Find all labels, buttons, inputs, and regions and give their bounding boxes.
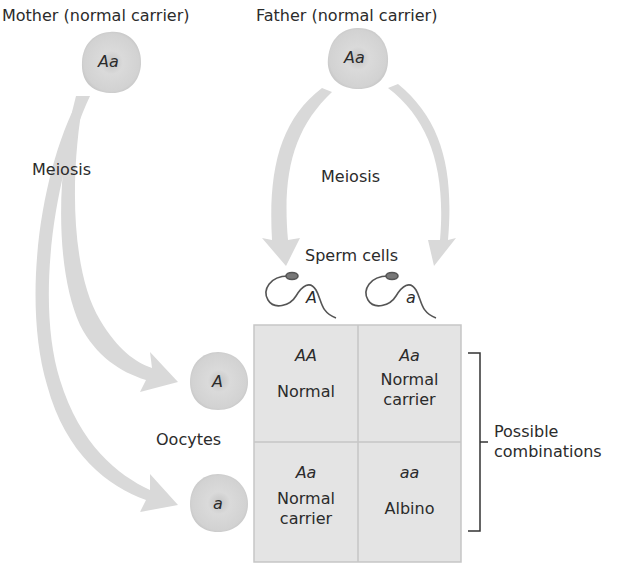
oocyte-allele-A: A bbox=[212, 372, 223, 391]
mother-genotype: Aa bbox=[98, 52, 119, 71]
cell-genotype: Aa bbox=[254, 463, 358, 483]
father-label: Father (normal carrier) bbox=[256, 6, 437, 25]
possible-combinations-label: Possible combinations bbox=[494, 422, 602, 462]
punnett-cell-Aa-top: Aa Normal carrier bbox=[358, 346, 461, 410]
arrow-to-sperm-a bbox=[388, 84, 456, 266]
punnett-cell-aa: aa Albino bbox=[358, 463, 461, 519]
cell-phenotype-line2: carrier bbox=[358, 390, 461, 410]
combinations-bracket bbox=[468, 353, 488, 531]
cell-phenotype: Normal bbox=[358, 370, 461, 390]
sperm-a bbox=[366, 273, 436, 319]
bracket-label-line1: Possible bbox=[494, 422, 602, 442]
bracket-label-line2: combinations bbox=[494, 442, 602, 462]
cell-genotype: aa bbox=[358, 463, 461, 483]
cell-genotype: AA bbox=[254, 346, 358, 366]
cell-phenotype: Normal bbox=[254, 382, 358, 402]
sperm-allele-A: A bbox=[306, 288, 317, 307]
sperm-cells-label: Sperm cells bbox=[305, 246, 398, 265]
mother-label: Mother (normal carrier) bbox=[2, 6, 190, 25]
cell-phenotype: Albino bbox=[358, 499, 461, 519]
mother-meiosis-label: Meiosis bbox=[32, 160, 91, 179]
sperm-A bbox=[266, 273, 336, 319]
father-meiosis-label: Meiosis bbox=[321, 167, 380, 186]
oocyte-allele-a: a bbox=[213, 494, 223, 513]
arrow-to-oocyte-a bbox=[36, 96, 178, 512]
father-genotype: Aa bbox=[344, 48, 365, 67]
arrow-to-oocyte-A bbox=[61, 96, 178, 392]
cell-phenotype-line2: carrier bbox=[254, 509, 358, 529]
punnett-cell-Aa-bottom: Aa Normal carrier bbox=[254, 463, 358, 529]
cell-phenotype: Normal bbox=[254, 489, 358, 509]
sperm-allele-a: a bbox=[406, 288, 416, 307]
mother-meiosis-arrows bbox=[36, 96, 178, 512]
cell-genotype: Aa bbox=[358, 346, 461, 366]
oocytes-label: Oocytes bbox=[156, 430, 221, 449]
punnett-cell-AA: AA Normal bbox=[254, 346, 358, 402]
